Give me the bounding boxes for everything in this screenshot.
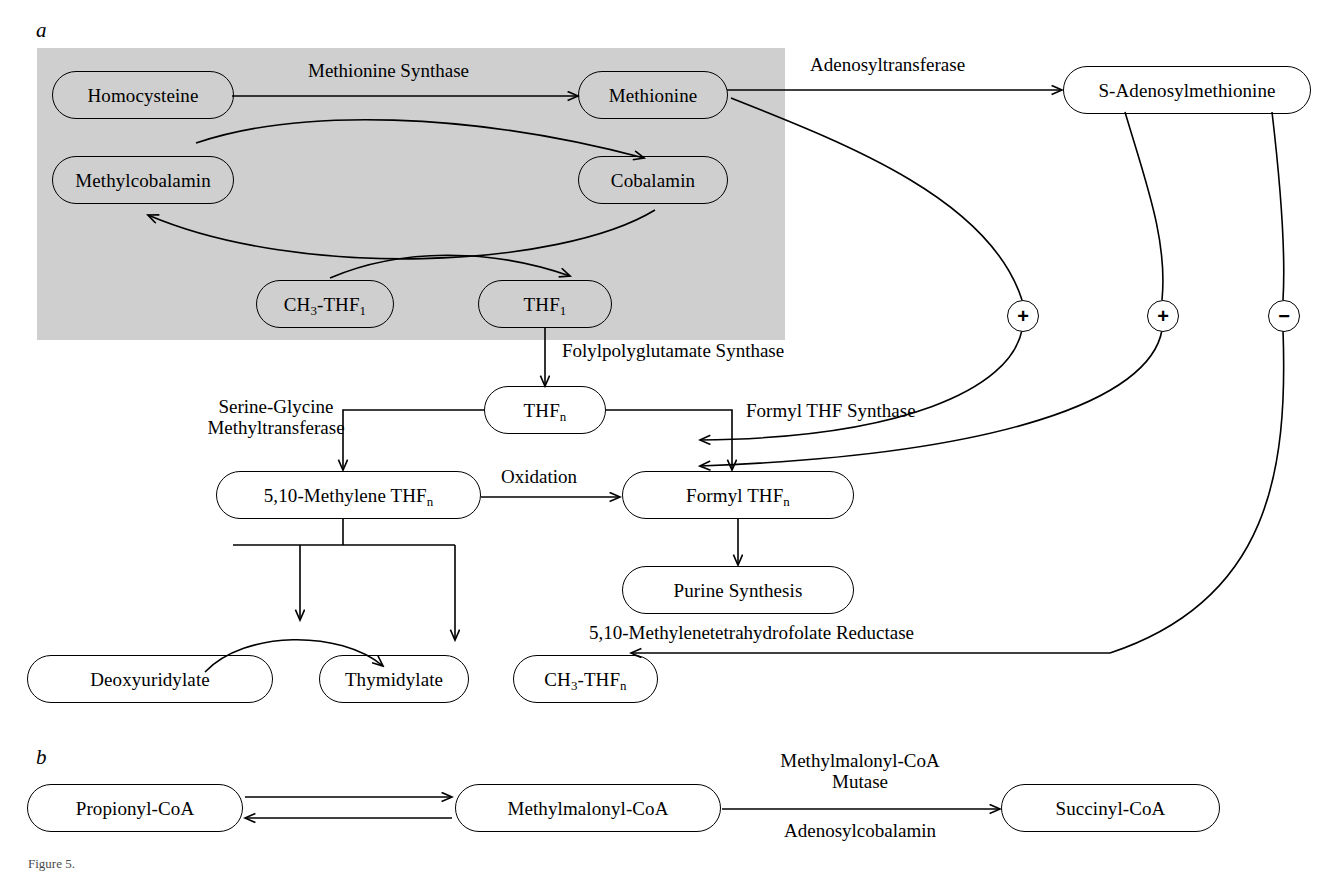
- node-purine-synthesis[interactable]: Purine Synthesis: [622, 566, 854, 614]
- regulation-sign-positive-1: +: [1007, 300, 1039, 332]
- regulation-sign-negative: −: [1268, 300, 1300, 332]
- node-label: CH3-THF1: [284, 295, 366, 314]
- node-label: Methionine: [609, 86, 698, 105]
- enzyme-label-oxidation: Oxidation: [501, 466, 577, 487]
- node-label: THFn: [524, 401, 567, 420]
- enzyme-label-line-2: Methyltransferase: [207, 417, 344, 438]
- node-ch3-thf1[interactable]: CH3-THF1: [256, 280, 394, 328]
- enzyme-label-line-1: Methylmalonyl-CoA: [780, 750, 939, 771]
- node-label: Formyl THFn: [686, 486, 790, 505]
- enzyme-label-methylenetetrahydrofolate-reductase: 5,10-Methylenetetrahydrofolate Reductase: [589, 622, 914, 643]
- figure-caption: Figure 5.: [28, 856, 75, 872]
- node-thf1[interactable]: THF1: [478, 280, 612, 328]
- node-label: Propionyl-CoA: [76, 799, 194, 818]
- cofactor-label-adenosylcobalamin: Adenosylcobalamin: [742, 820, 978, 841]
- node-label: Thymidylate: [345, 670, 443, 689]
- node-succinyl-coa[interactable]: Succinyl-CoA: [1001, 784, 1220, 832]
- node-methionine[interactable]: Methionine: [578, 71, 728, 119]
- enzyme-label-methylmalonyl-coa-mutase: Methylmalonyl-CoA Mutase: [720, 750, 1000, 793]
- node-label: Succinyl-CoA: [1056, 799, 1166, 818]
- node-propionyl-coa[interactable]: Propionyl-CoA: [27, 784, 243, 832]
- node-label: 5,10-Methylene THFn: [264, 486, 434, 505]
- node-label: Homocysteine: [88, 86, 199, 105]
- regulation-sign-positive-2: +: [1147, 300, 1179, 332]
- node-label: CH3-THFn: [544, 670, 626, 689]
- node-methylmalonyl-coa[interactable]: Methylmalonyl-CoA: [455, 784, 721, 832]
- node-thfn[interactable]: THFn: [484, 386, 606, 434]
- node-homocysteine[interactable]: Homocysteine: [52, 71, 234, 119]
- enzyme-label-serine-glycine-methyltransferase: Serine-Glycine Methyltransferase: [166, 396, 386, 439]
- node-deoxyuridylate[interactable]: Deoxyuridylate: [27, 655, 273, 703]
- node-label: Deoxyuridylate: [90, 670, 210, 689]
- node-label: S-Adenosylmethionine: [1098, 81, 1275, 100]
- enzyme-label-formyl-thf-synthase: Formyl THF Synthase: [746, 400, 916, 421]
- node-cobalamin[interactable]: Cobalamin: [578, 156, 728, 204]
- enzyme-label-line-2: Mutase: [832, 771, 888, 792]
- node-ch3-thfn[interactable]: CH3-THFn: [513, 655, 658, 703]
- node-formyl-thfn[interactable]: Formyl THFn: [622, 471, 854, 519]
- enzyme-label-folylpolyglutamate-synthase: Folylpolyglutamate Synthase: [562, 340, 784, 361]
- node-methylene-thfn[interactable]: 5,10-Methylene THFn: [216, 471, 481, 519]
- node-label: Methylmalonyl-CoA: [507, 799, 668, 818]
- node-label: THF1: [524, 295, 567, 314]
- panel-label-b: b: [36, 745, 47, 770]
- node-label: Purine Synthesis: [674, 581, 803, 600]
- node-s-adenosylmethionine[interactable]: S-Adenosylmethionine: [1063, 66, 1311, 114]
- node-thymidylate[interactable]: Thymidylate: [319, 655, 469, 703]
- node-label: Methylcobalamin: [75, 171, 211, 190]
- enzyme-label-line-1: Serine-Glycine: [218, 396, 333, 417]
- panel-label-a: a: [36, 18, 47, 43]
- node-label: Cobalamin: [611, 171, 695, 190]
- node-methylcobalamin[interactable]: Methylcobalamin: [52, 156, 234, 204]
- enzyme-label-methionine-synthase: Methionine Synthase: [308, 60, 469, 81]
- enzyme-label-adenosyltransferase: Adenosyltransferase: [810, 54, 965, 75]
